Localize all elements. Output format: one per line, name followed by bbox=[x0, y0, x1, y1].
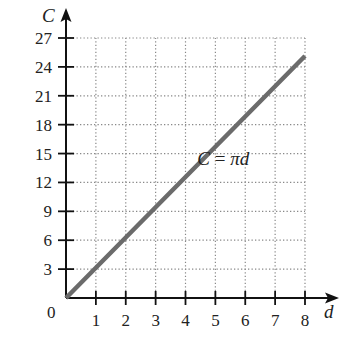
y-tick-label: 12 bbox=[35, 173, 52, 192]
y-tick-labels: 369121518212427 bbox=[35, 29, 53, 279]
x-tick-label: 2 bbox=[122, 311, 131, 330]
x-tick-label: 6 bbox=[241, 311, 250, 330]
y-tick-label: 9 bbox=[44, 202, 53, 221]
equation-annotation: C = πd bbox=[197, 148, 249, 169]
y-axis-label: C bbox=[42, 5, 55, 26]
y-tick-label: 21 bbox=[35, 87, 52, 106]
y-tick-label: 24 bbox=[35, 58, 53, 77]
x-tick-label: 7 bbox=[271, 311, 280, 330]
y-tick-label: 18 bbox=[35, 116, 52, 135]
x-tick-label: 8 bbox=[301, 311, 310, 330]
x-axis-label: d bbox=[324, 301, 334, 322]
x-tick-label: 4 bbox=[181, 311, 190, 330]
x-tick-labels: 12345678 bbox=[92, 311, 310, 330]
y-tick-label: 15 bbox=[35, 145, 52, 164]
origin-label: 0 bbox=[47, 303, 56, 322]
chart: 12345678 369121518212427 0 d C C = πd bbox=[0, 0, 361, 345]
y-tick-label: 3 bbox=[44, 260, 53, 279]
x-tick-label: 3 bbox=[151, 311, 160, 330]
x-tick-label: 1 bbox=[92, 311, 101, 330]
tick-marks bbox=[58, 38, 305, 305]
y-tick-label: 27 bbox=[35, 29, 53, 48]
x-tick-label: 5 bbox=[211, 311, 220, 330]
y-tick-label: 6 bbox=[44, 231, 53, 250]
